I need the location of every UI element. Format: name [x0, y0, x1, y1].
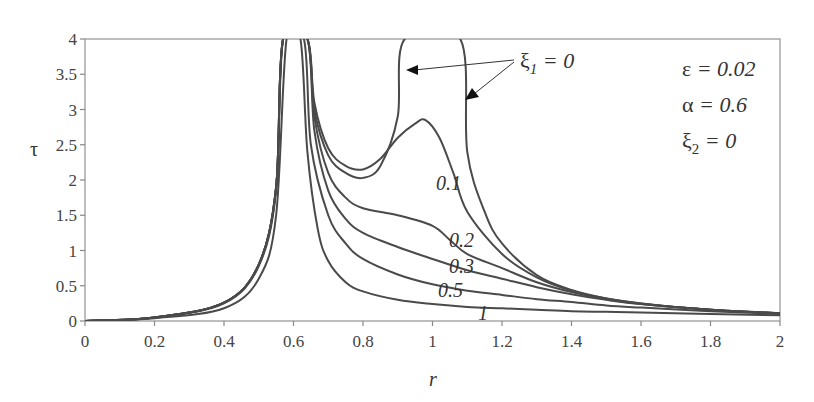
x-tick-label: 0.2: [144, 332, 165, 351]
curve-label: 0.3: [449, 255, 474, 277]
y-tick-label: 2.5: [56, 136, 77, 155]
x-tick-label: 1.2: [491, 332, 512, 351]
x-tick-label: 1: [428, 332, 437, 351]
y-axis-ticks: 00.511.522.533.54: [56, 30, 85, 331]
arrow-head-icon: [406, 65, 418, 75]
y-tick-label: 0: [69, 312, 78, 331]
y-axis-title: τ: [30, 138, 38, 160]
chart: 00.20.40.60.811.21.41.61.82 00.511.522.5…: [0, 0, 814, 402]
curve-label: 0.2: [449, 229, 474, 251]
y-tick-label: 0.5: [56, 277, 77, 296]
curve-xi1-0.2: [85, 25, 780, 321]
arrow-line: [414, 60, 514, 70]
parameter-2: ξ2 = 0: [682, 128, 736, 157]
x-tick-label: 0.4: [213, 332, 235, 351]
x-tick-label: 1.6: [630, 332, 651, 351]
y-tick-label: 3.5: [56, 65, 77, 84]
arrow-line: [474, 62, 514, 94]
curve-label: 1: [478, 302, 488, 324]
curve-xi1-1: [85, 21, 780, 321]
x-axis-title: r: [429, 368, 437, 390]
parameter-box: ε = 0.02α = 0.6ξ2 = 0: [682, 56, 756, 157]
curve-labels: 0.10.20.30.51: [436, 172, 488, 324]
plot-frame: [85, 39, 780, 321]
y-tick-label: 4: [69, 30, 78, 49]
x-tick-label: 1.8: [700, 332, 721, 351]
curve-xi1-0: [85, 25, 780, 321]
x-tick-label: 0.8: [352, 332, 373, 351]
y-tick-label: 1: [69, 242, 78, 261]
parameter-0: ε = 0.02: [682, 56, 756, 81]
curve-xi1-0.5: [85, 23, 780, 321]
curve-label: 0.5: [438, 279, 463, 301]
curve-label: 0.1: [436, 172, 461, 194]
y-tick-label: 2: [69, 171, 78, 190]
x-tick-label: 1.4: [561, 332, 583, 351]
plot-area: [85, 39, 780, 321]
x-axis-ticks: 00.20.40.60.811.21.41.61.82: [81, 321, 785, 351]
curves: [85, 21, 780, 321]
xi1-annotation: ξ1 = 0: [406, 48, 574, 100]
x-tick-label: 0.6: [283, 332, 304, 351]
y-tick-label: 1.5: [56, 206, 77, 225]
curve-xi1-0.1: [85, 25, 780, 321]
x-tick-label: 2: [776, 332, 785, 351]
y-tick-label: 3: [69, 101, 78, 120]
parameter-1: α = 0.6: [682, 92, 747, 117]
x-tick-label: 0: [81, 332, 90, 351]
xi1-label: ξ1 = 0: [520, 48, 574, 77]
